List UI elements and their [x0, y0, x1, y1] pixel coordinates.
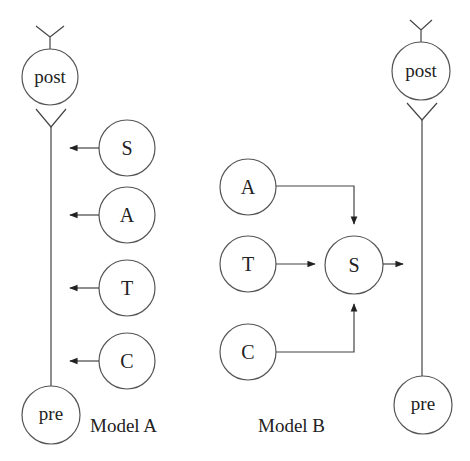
model-a-post-node: post: [22, 49, 78, 105]
model-a-top-fork: [36, 26, 64, 49]
svg-text:A: A: [241, 176, 256, 198]
svg-text:C: C: [120, 350, 133, 372]
model-a-inputs: S A T C: [70, 120, 155, 389]
model-b-node-s-hub: S: [325, 236, 383, 294]
model-a-lower-fork: [36, 109, 66, 127]
svg-text:pre: pre: [411, 393, 435, 414]
model-b-node-a: A: [220, 159, 276, 215]
svg-text:S: S: [348, 254, 359, 276]
model-a-node-a: A: [99, 187, 155, 243]
right-pre-node: pre: [394, 376, 452, 434]
model-b-arrow-a: [276, 186, 354, 224]
model-b: A T C S: [220, 159, 403, 380]
model-a-node-t: T: [99, 260, 155, 316]
svg-text:T: T: [242, 253, 254, 275]
svg-text:post: post: [405, 60, 437, 81]
right-top-fork: [410, 20, 432, 42]
svg-text:post: post: [34, 66, 66, 87]
model-a-node-s: S: [99, 120, 155, 176]
model-a-caption: Model A: [90, 415, 157, 436]
model-b-arrow-c: [276, 304, 354, 352]
model-b-caption: Model B: [258, 415, 325, 436]
right-neuron: post pre: [392, 20, 452, 434]
right-post-node: post: [392, 42, 450, 100]
svg-text:C: C: [241, 341, 254, 363]
svg-text:pre: pre: [39, 403, 63, 424]
right-lower-fork: [407, 103, 437, 120]
model-b-node-t: T: [220, 236, 276, 292]
model-a-node-c: C: [99, 333, 155, 389]
svg-text:T: T: [121, 277, 133, 299]
model-a-pre-node: pre: [22, 386, 80, 444]
model-a-neuron: post pre: [22, 26, 80, 444]
svg-text:A: A: [120, 204, 135, 226]
svg-text:S: S: [121, 137, 132, 159]
model-b-node-c: C: [220, 324, 276, 380]
diagram-canvas: post pre S A T C Model A: [0, 0, 470, 461]
